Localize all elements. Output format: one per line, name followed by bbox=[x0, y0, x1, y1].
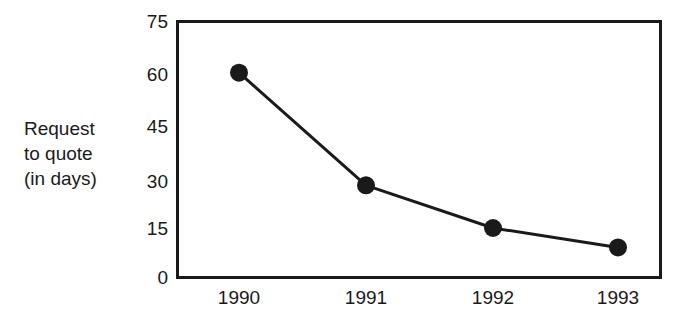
line-chart-figure: Request to quote (in days) 75 60 45 30 1… bbox=[0, 0, 691, 326]
plot-area bbox=[0, 0, 691, 326]
data-point-1990 bbox=[230, 64, 248, 82]
data-point-1991 bbox=[357, 176, 375, 194]
data-point-1992 bbox=[484, 219, 502, 237]
data-line-series-1 bbox=[239, 73, 618, 248]
plot-frame-border bbox=[178, 22, 661, 278]
data-point-markers bbox=[230, 64, 627, 257]
data-point-1993 bbox=[609, 238, 627, 256]
